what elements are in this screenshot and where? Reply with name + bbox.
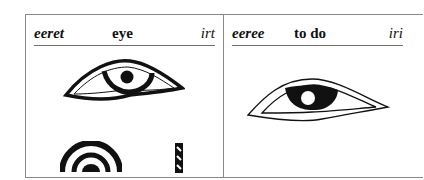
egyptian-word: iri [389, 25, 403, 42]
eye-hieroglyph-icon [60, 57, 185, 117]
entry-to-do-panel: eeree to do iri [223, 15, 411, 177]
meaning: eye [112, 25, 133, 42]
stroke-determinative-icon [174, 143, 184, 173]
meaning: to do [294, 25, 326, 42]
entry-eye-panel: eeret eye irt [26, 15, 223, 177]
mouth-semicircle-icon [60, 141, 122, 173]
transliteration: eeree [232, 25, 264, 42]
transliteration: eeret [34, 25, 64, 42]
glossary-table: eeret eye irt eeree to do iri [25, 14, 423, 178]
eye-hieroglyph-icon [242, 69, 392, 125]
entry-header: eeret eye irt [34, 23, 215, 46]
egyptian-word: irt [201, 25, 215, 42]
entry-header: eeree to do iri [232, 23, 403, 46]
